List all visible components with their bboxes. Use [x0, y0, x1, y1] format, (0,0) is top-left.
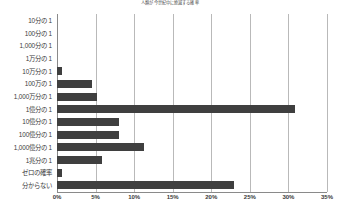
bar[interactable] [57, 181, 234, 189]
x-axis-line [57, 192, 327, 193]
x-axis-tick-label: 0% [53, 194, 62, 200]
bar-row [57, 90, 327, 103]
y-axis-label: 1,000億分の 1 [0, 141, 55, 154]
bar[interactable] [57, 67, 62, 75]
bar[interactable] [57, 105, 295, 113]
y-axis-label: 1,000万分の 1 [0, 90, 55, 103]
chart-title: 人類が今世紀中に絶滅する確率 [0, 0, 340, 6]
x-axis-tick-labels: 0%5%10%15%20%25%30%35% [57, 194, 327, 208]
bar[interactable] [57, 143, 144, 151]
bar-row [57, 78, 327, 91]
bar[interactable] [57, 93, 97, 101]
bar-row [57, 27, 327, 40]
y-axis-label: 100分の 1 [0, 27, 55, 40]
bar-row [57, 52, 327, 65]
x-axis-tick-label: 15% [167, 194, 179, 200]
bar-row [57, 65, 327, 78]
x-axis-tick-label: 20% [205, 194, 217, 200]
y-axis-label: 10億分の 1 [0, 116, 55, 129]
bar-row [57, 154, 327, 167]
bar[interactable] [57, 156, 102, 164]
y-axis-label: 1億分の 1 [0, 103, 55, 116]
y-axis-label: 1,000分の 1 [0, 39, 55, 52]
y-axis-label: 10分の 1 [0, 14, 55, 27]
bar-chart: 人類が今世紀中に絶滅する確率 10分の 1100分の 11,000分の 11万分… [0, 0, 340, 220]
x-axis-tick-label: 30% [282, 194, 294, 200]
bar[interactable] [57, 80, 92, 88]
bar-row [57, 179, 327, 192]
y-axis-label: 1万分の 1 [0, 52, 55, 65]
bar-row [57, 103, 327, 116]
x-axis-tick-label: 5% [91, 194, 100, 200]
x-axis-tick-label: 35% [321, 194, 333, 200]
bar[interactable] [57, 131, 119, 139]
plot-area [57, 14, 327, 192]
y-axis-label: 100万の 1 [0, 78, 55, 91]
y-axis-label: ゼロの確率 [0, 166, 55, 179]
y-axis-label: 分からない [0, 179, 55, 192]
x-axis-tick-label: 10% [128, 194, 140, 200]
bar[interactable] [57, 118, 119, 126]
bar-series [57, 14, 327, 192]
bar-row [57, 166, 327, 179]
x-axis-tick-label: 25% [244, 194, 256, 200]
y-axis-label: 1兆分の 1 [0, 154, 55, 167]
y-axis-label: 10万分の 1 [0, 65, 55, 78]
bar-row [57, 128, 327, 141]
y-axis-label: 100億分の 1 [0, 128, 55, 141]
bar-row [57, 39, 327, 52]
y-axis-category-labels: 10分の 1100分の 11,000分の 11万分の 110万分の 1100万の… [0, 14, 55, 192]
bar-row [57, 116, 327, 129]
bar[interactable] [57, 169, 62, 177]
bar-row [57, 141, 327, 154]
gridline-35% [327, 14, 328, 192]
bar-row [57, 14, 327, 27]
